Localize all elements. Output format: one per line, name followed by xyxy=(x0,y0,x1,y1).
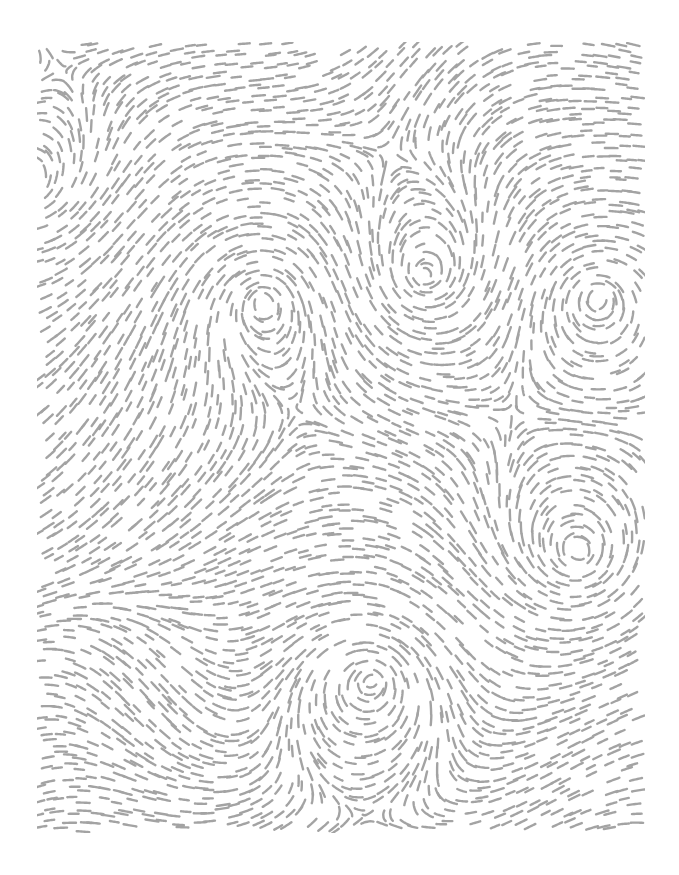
flow-field-artwork xyxy=(37,42,645,833)
flow-field-canvas xyxy=(37,42,645,833)
page xyxy=(0,0,679,875)
